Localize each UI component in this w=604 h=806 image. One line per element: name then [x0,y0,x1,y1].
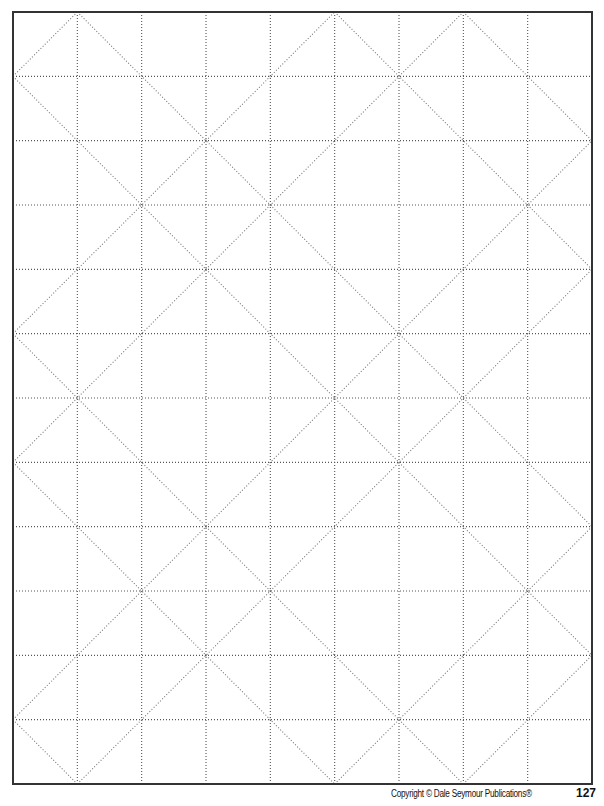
diagonal-line [13,462,335,784]
diagonal-line [13,12,77,76]
diagonal-line [463,655,592,784]
page-number: 127 [576,786,596,800]
diagonal-line [13,12,463,462]
diagonal-line [13,141,592,720]
diagonal-line [13,720,77,784]
diagonal-line [13,334,463,784]
diagonal-line [463,12,592,141]
diagonal-line [13,76,592,655]
diagonal-line [13,12,335,334]
grid-lines [13,12,592,784]
dotted-grid-worksheet [0,0,604,806]
copyright-notice: Copyright © Dale Seymour Publications® [391,788,532,799]
